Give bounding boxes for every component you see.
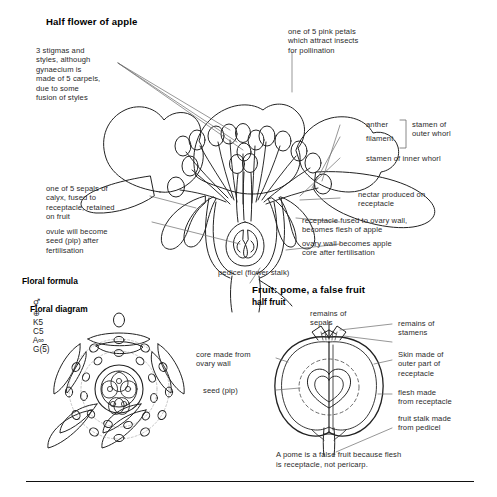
style-shapes bbox=[237, 172, 252, 222]
label-remains-of-sepals: remains of sepals bbox=[310, 309, 346, 328]
floral-diagram-heading: Floral diagram bbox=[30, 304, 88, 314]
fd-stamens-inner bbox=[81, 350, 158, 430]
fd-gynoecium bbox=[95, 365, 143, 414]
formula-androecium: A∞ bbox=[33, 336, 44, 345]
label-ovule: ovule will become seed (pip) after ferti… bbox=[46, 227, 108, 255]
label-fruit-stalk: fruit stalk made from pedicel bbox=[398, 414, 451, 433]
label-remains-of-stamens: remains of stamens bbox=[398, 319, 434, 338]
fruit-footnote: A pome is a false fruit because flesh is… bbox=[276, 450, 401, 470]
stamen-bracket bbox=[400, 120, 406, 148]
formula-corolla: C5 bbox=[33, 327, 43, 336]
label-flesh: flesh made from receptacle bbox=[398, 388, 452, 407]
fruit-heading: Fruit: pome, a false fruit bbox=[252, 284, 365, 295]
label-stamen-outer-whorl: stamen of outer whorl bbox=[412, 120, 451, 139]
label-nectar: nectar produced on receptacle bbox=[358, 190, 425, 209]
label-skin: Skin made of outer part of receptacle bbox=[398, 350, 444, 378]
formula-calyx: K5 bbox=[33, 318, 43, 327]
bottom-divider bbox=[26, 481, 474, 482]
label-stamen-inner-whorl: stamen of inner whorl bbox=[366, 154, 441, 163]
bract-shape bbox=[114, 313, 125, 327]
label-ovary-wall: ovary wall becomes apple core after fert… bbox=[302, 239, 392, 258]
floral-formula-text: ⚥ ⊕ K5 C5 A∞ G(5) bbox=[24, 289, 50, 363]
sepal-shapes bbox=[161, 196, 314, 249]
figure-canvas: Half flower of apple 3 stigmas and style… bbox=[0, 0, 497, 497]
label-petals: one of 5 pink petals which attract insec… bbox=[288, 27, 358, 55]
stamen-remains-shape bbox=[321, 330, 337, 340]
label-anther: anther bbox=[366, 120, 388, 129]
fruit-subheading: half fruit bbox=[252, 297, 286, 307]
label-receptacle: receptacle fused to ovary wall, becomes … bbox=[302, 216, 407, 235]
page-title: Half flower of apple bbox=[46, 16, 138, 27]
label-stigmas-styles: 3 stigmas and styles, although gynaecium… bbox=[36, 46, 100, 102]
floral-formula-heading: Floral formula bbox=[22, 276, 78, 286]
formula-gynoecium: G(5) bbox=[33, 345, 49, 354]
label-seed-pip: seed (pip) bbox=[203, 386, 238, 395]
label-filament: filament bbox=[366, 134, 393, 143]
label-sepals: one of 5 sepals of calyx, fused to recep… bbox=[46, 184, 115, 222]
label-pedicel: pedicel (flower stalk) bbox=[218, 268, 289, 277]
label-core: core made from ovary wall bbox=[196, 350, 251, 369]
floral-diagram-artwork bbox=[48, 313, 184, 448]
stigma-shapes bbox=[230, 143, 258, 174]
